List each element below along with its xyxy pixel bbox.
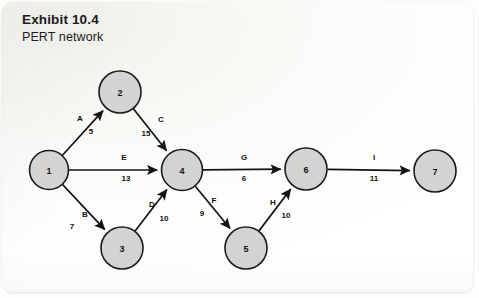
node-2: 2 [99,71,141,113]
edge-duration-label-H: 10 [282,211,291,220]
node-label-3: 3 [119,244,124,254]
edge-activity-label-F: F [212,196,217,205]
edge-4-to-5 [195,186,230,228]
edge-activity-label-I: I [373,153,375,162]
edge-duration-label-F: 9 [200,209,205,218]
node-label-2: 2 [117,88,122,98]
edge-duration-label-A: 5 [89,127,94,136]
edges-layer [62,109,409,231]
edge-activity-label-G: G [241,153,247,162]
node-label-1: 1 [46,166,51,176]
node-label-6: 6 [303,165,308,175]
edge-activity-label-B: B [82,210,88,219]
node-label-5: 5 [243,244,248,254]
node-3: 3 [101,227,143,269]
node-5: 5 [225,227,267,269]
edge-6-to-7 [327,169,409,170]
node-7: 7 [414,150,456,192]
edge-activity-label-E: E [121,153,127,162]
edge-duration-label-C: 15 [142,129,151,138]
pert-network-diagram: 1234567 A5B7C15D10E13F9G6H10I11 [0,0,479,298]
edge-duration-label-I: 11 [370,174,379,183]
node-label-4: 4 [179,166,184,176]
edge-duration-label-D: 10 [160,214,169,223]
edge-labels-layer: A5B7C15D10E13F9G6H10I11 [70,114,379,231]
edge-activity-label-A: A [77,114,83,123]
edge-duration-label-B: 7 [70,222,75,231]
edge-activity-label-D: D [149,200,155,209]
exhibit-page: Exhibit 10.4 PERT network 1234567 A5B7C1… [0,0,479,298]
edge-activity-label-H: H [270,198,276,207]
node-1: 1 [30,151,69,190]
edge-duration-label-G: 6 [242,174,247,183]
edge-duration-label-E: 13 [122,174,131,183]
edge-activity-label-C: C [158,115,164,124]
node-4: 4 [162,150,203,191]
edge-3-to-4 [135,190,167,231]
node-label-7: 7 [432,167,437,177]
edge-4-to-6 [203,169,281,170]
node-6: 6 [285,148,327,190]
